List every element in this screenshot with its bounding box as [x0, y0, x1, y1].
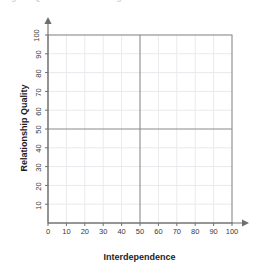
x-axis-title: Interdependence — [0, 252, 261, 262]
y-tick-label-20: 20 — [34, 176, 43, 196]
x-tick-label-90: 90 — [204, 227, 224, 236]
x-tick-label-0: 0 — [38, 227, 58, 236]
y-tick-label-90: 90 — [34, 45, 43, 65]
y-tick-label-50: 50 — [34, 120, 43, 140]
y-tick-label-10: 10 — [34, 195, 43, 215]
y-tick-label-30: 30 — [34, 157, 43, 177]
x-axis-arrow-icon — [242, 220, 249, 227]
y-axis-title: Relationship Quality — [19, 58, 29, 198]
y-tick-label-80: 80 — [34, 63, 43, 83]
x-tick-label-80: 80 — [185, 227, 205, 236]
y-tick-label-40: 40 — [34, 139, 43, 159]
x-tick-label-40: 40 — [112, 227, 132, 236]
y-axis-arrow-icon — [44, 17, 51, 24]
quadrant-chart: 0 10 20 30 40 50 60 70 80 90 100 10 20 3… — [0, 0, 261, 271]
y-tick-label-100: 100 — [32, 26, 41, 46]
x-tick-label-100: 100 — [222, 227, 242, 236]
x-tick-label-60: 60 — [148, 227, 168, 236]
x-tick-label-20: 20 — [75, 227, 95, 236]
y-tick-label-70: 70 — [34, 82, 43, 102]
x-tick-label-70: 70 — [167, 227, 187, 236]
y-tick-label-60: 60 — [34, 101, 43, 121]
x-tick-label-50: 50 — [130, 227, 150, 236]
x-tick-label-10: 10 — [56, 227, 76, 236]
x-tick-label-30: 30 — [93, 227, 113, 236]
